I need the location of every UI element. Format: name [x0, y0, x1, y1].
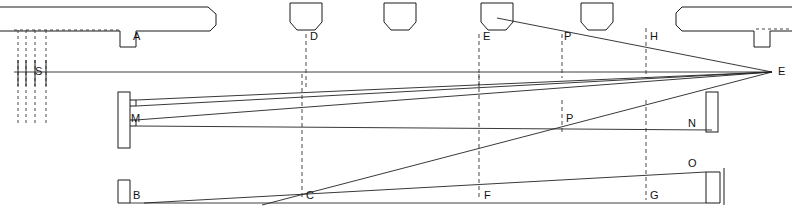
ray-bundle	[136, 18, 772, 205]
ray-m-to-n	[136, 126, 712, 130]
trapezoid-stop-e	[481, 3, 513, 30]
ray-top-to-e	[497, 18, 772, 72]
label-f: F	[484, 190, 491, 201]
upper-left-baffle-a	[0, 7, 216, 47]
baffle-right-upper	[676, 7, 792, 47]
right-stop-n	[706, 92, 718, 132]
ray-diagram: A S D E P H E M P N O B C F G	[0, 0, 792, 210]
ray-c-to-e	[262, 72, 772, 205]
label-o: O	[688, 158, 697, 169]
label-e-top: E	[483, 31, 490, 42]
label-p-mid: P	[566, 113, 573, 124]
label-s: S	[35, 66, 42, 77]
label-b: B	[133, 190, 140, 201]
diagram-canvas	[0, 0, 792, 210]
trapezoid-stop-p	[581, 3, 613, 30]
label-a: A	[133, 31, 140, 42]
ray-b-to-o	[144, 172, 706, 203]
lower-left-baffle-b	[118, 180, 470, 203]
label-d: D	[310, 31, 318, 42]
label-p-top: P	[564, 31, 571, 42]
ray-m-to-e-mid	[136, 72, 772, 106]
label-n: N	[688, 118, 696, 129]
source-slit-lines	[14, 30, 120, 126]
label-m: M	[131, 113, 140, 124]
label-e-right: E	[778, 66, 785, 77]
label-c: C	[306, 190, 314, 201]
trapezoid-stop-d	[290, 3, 322, 30]
trapezoid-stop-unlabeled	[384, 3, 416, 30]
label-g: G	[650, 190, 659, 201]
label-h: H	[650, 31, 658, 42]
